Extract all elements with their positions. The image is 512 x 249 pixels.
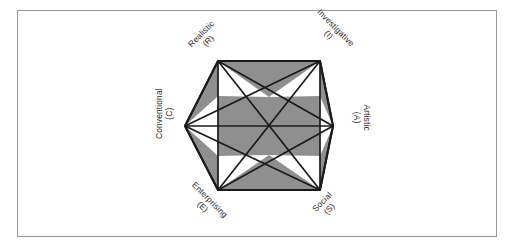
figure-frame: [17, 10, 497, 237]
vertex-label-artistic-name: Artistic: [361, 87, 371, 149]
vertex-label-conventional: Conventional (C): [155, 74, 174, 154]
vertex-label-conventional-code: (C): [165, 74, 175, 154]
figure-stage: Realistic (R) Investigative (I) Artistic…: [0, 0, 512, 249]
vertex-label-artistic: Artistic (A): [351, 87, 370, 149]
vertex-label-artistic-code: (A): [351, 87, 361, 149]
